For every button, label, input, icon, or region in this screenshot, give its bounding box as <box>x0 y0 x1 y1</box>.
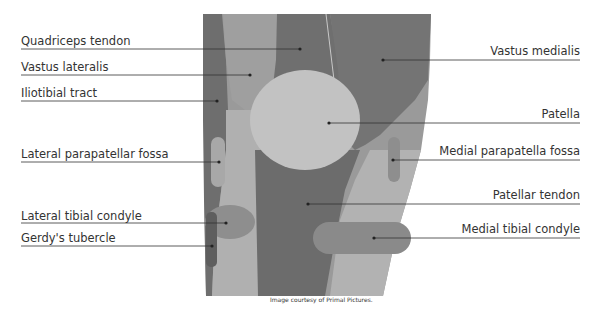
label-vastus-medialis: Vastus medialis <box>490 44 580 58</box>
label-medial-parapatella-fossa: Medial parapatella fossa <box>439 144 580 158</box>
patella <box>250 70 360 170</box>
label-quadriceps-tendon: Quadriceps tendon <box>21 34 130 48</box>
label-patella: Patella <box>542 107 581 121</box>
label-iliotibial-tract: Iliotibial tract <box>21 86 97 100</box>
label-gerdys-tubercle: Gerdy's tubercle <box>21 231 116 245</box>
label-vastus-lateralis: Vastus lateralis <box>21 60 108 74</box>
gerdys-tubercle <box>206 212 217 267</box>
label-lateral-tibial-condyle: Lateral tibial condyle <box>21 209 142 223</box>
label-patellar-tendon: Patellar tendon <box>493 188 580 202</box>
label-lateral-parapatellar-fossa: Lateral parapatellar fossa <box>21 147 169 161</box>
image-credit: Image courtesy of Primal Pictures. <box>270 296 373 303</box>
label-medial-tibial-condyle: Medial tibial condyle <box>461 222 580 236</box>
